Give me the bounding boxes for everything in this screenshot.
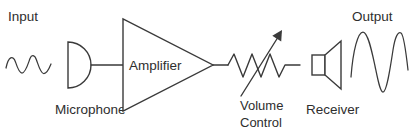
diagram-canvas: Input Microphone Amplifier Volume Contro… [0,0,412,135]
output-label: Output [352,9,393,24]
volume-control-label-line1: Volume [240,98,283,113]
variable-resistor-symbol [228,30,300,96]
resistor-zigzag [228,54,300,77]
output-waveform [351,32,408,92]
speaker-symbol [312,41,341,89]
microphone-label: Microphone [55,102,126,117]
microphone-symbol [68,42,123,88]
amplifier-label: Amplifier [129,58,182,73]
input-label: Input [8,9,38,24]
speaker-cone [325,41,341,89]
receiver-label: Receiver [306,102,360,117]
speaker-body [312,55,325,75]
input-waveform [6,56,51,74]
volume-control-label-line2: Control [240,115,282,130]
hearing-aid-signal-flow-diagram: Input Microphone Amplifier Volume Contro… [0,0,412,135]
